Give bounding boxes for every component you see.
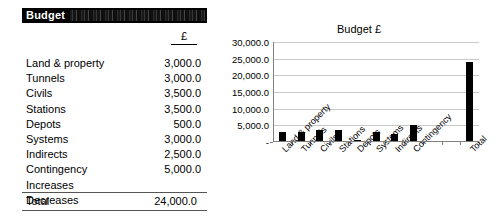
chart-axis-frame	[273, 42, 479, 142]
obscured-header-text	[70, 10, 205, 21]
budget-bar-chart: Budget £ -5,000.010,000.015,000.020,000.…	[215, 0, 503, 224]
row-label: Indirects	[26, 147, 68, 161]
currency-header-row: £	[22, 30, 207, 46]
row-value: 3,000.0	[164, 56, 201, 70]
row-label: Systems	[26, 132, 68, 146]
row-value: 3,500.0	[164, 102, 201, 116]
budget-table-header-bar[interactable]: Budget	[22, 8, 207, 23]
row-value: 3,000.0	[164, 132, 201, 146]
row-label: Civils	[26, 86, 52, 100]
y-tick-label: 25,000.0	[232, 53, 269, 64]
x-tick-mark	[442, 142, 443, 145]
budget-total-row: Total 24,000.0	[22, 192, 207, 211]
total-value: 24,000.0	[154, 195, 197, 207]
y-tick-label: 15,000.0	[232, 87, 269, 98]
y-tick-label: 5,000.0	[237, 120, 269, 131]
table-row[interactable]: Contingency5,000.0	[26, 162, 207, 176]
y-tick-mark	[270, 142, 273, 143]
budget-table-panel: Budget £ Land & property3,000.0Tunnels3,…	[0, 0, 215, 224]
table-row[interactable]: Stations3,500.0	[26, 102, 207, 116]
table-row[interactable]: Systems3,000.0	[26, 132, 207, 146]
chart-title: Budget £	[215, 23, 503, 35]
row-value: 500.0	[173, 117, 201, 131]
x-tick-mark	[460, 142, 461, 145]
table-row[interactable]: Tunnels3,000.0	[26, 71, 207, 85]
table-row[interactable]: Indirects2,500.0	[26, 147, 207, 161]
table-row[interactable]: Civils3,500.0	[26, 86, 207, 100]
chart-plot-area: -5,000.010,000.015,000.020,000.025,000.0…	[273, 42, 479, 142]
currency-header-pound: £	[171, 30, 197, 45]
row-label: Tunnels	[26, 71, 65, 85]
row-label: Increases	[26, 178, 74, 192]
table-row[interactable]: Increases	[26, 178, 207, 192]
row-label: Stations	[26, 102, 66, 116]
row-label: Land & property	[26, 56, 104, 70]
spreadsheet-budget-view: Budget £ Land & property3,000.0Tunnels3,…	[0, 0, 503, 224]
total-label: Total	[26, 195, 49, 207]
budget-table-title: Budget	[22, 8, 65, 23]
table-row[interactable]: Depots500.0	[26, 117, 207, 131]
y-tick-label: 20,000.0	[232, 70, 269, 81]
y-tick-label: -	[266, 137, 269, 148]
row-value: 3,500.0	[164, 86, 201, 100]
row-value: 5,000.0	[164, 162, 201, 176]
y-tick-label: 30,000.0	[232, 37, 269, 48]
y-tick-label: 10,000.0	[232, 103, 269, 114]
row-label: Depots	[26, 117, 61, 131]
row-value: 2,500.0	[164, 147, 201, 161]
row-label: Contingency	[26, 162, 87, 176]
table-row[interactable]: Land & property3,000.0	[26, 56, 207, 70]
row-value: 3,000.0	[164, 71, 201, 85]
